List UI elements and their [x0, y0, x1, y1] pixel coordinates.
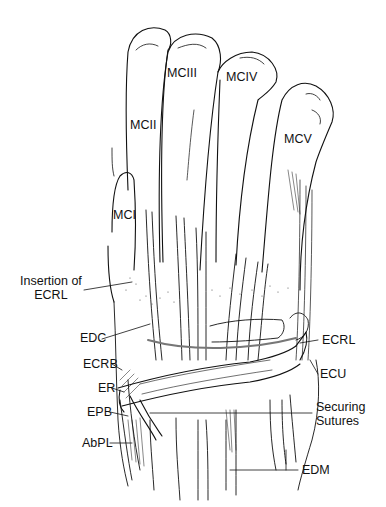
label-er: ER	[98, 381, 115, 395]
label-epb: EPB	[87, 405, 112, 419]
metacarpal-ii-drawing	[126, 28, 171, 262]
label-mciv: MCIV	[226, 70, 257, 84]
label-insertion-line2: ECRL	[20, 288, 82, 302]
label-mcv: MCV	[284, 132, 312, 146]
anatomical-figure: MCI MCII MCIII MCIV MCV Insertion of ECR…	[0, 0, 386, 507]
label-edm: EDM	[302, 463, 330, 477]
retinaculum-arc	[148, 338, 296, 348]
leader-lines	[84, 282, 318, 470]
wrist-outline	[114, 302, 319, 490]
label-insertion-of-ecrl: Insertion of ECRL	[20, 274, 82, 302]
label-mcii: MCII	[130, 118, 156, 132]
hatched-muscles	[120, 170, 300, 466]
label-edc: EDC	[80, 331, 106, 345]
label-ecu: ECU	[320, 367, 346, 381]
label-insertion-line1: Insertion of	[20, 274, 82, 288]
label-mci: MCI	[113, 208, 136, 222]
label-mciii: MCIII	[167, 66, 197, 80]
label-securing-sutures: Securing Sutures	[316, 400, 365, 428]
label-securing-line2: Sutures	[316, 414, 365, 428]
label-ecrb: ECRB	[83, 357, 118, 371]
label-securing-line1: Securing	[316, 400, 365, 414]
metacarpal-i-drawing	[108, 148, 136, 302]
label-abpl: AbPL	[82, 436, 113, 450]
metacarpal-v-drawing	[262, 83, 333, 290]
label-ecrl: ECRL	[322, 333, 355, 347]
